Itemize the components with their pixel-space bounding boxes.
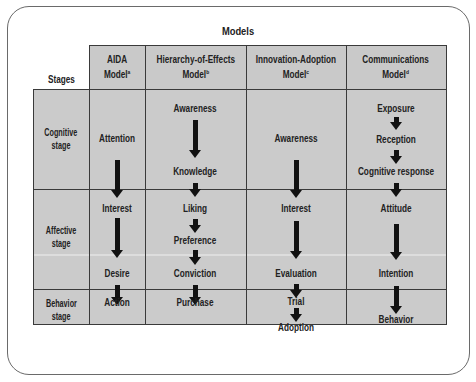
stage-cognitive: Cognitivestage — [33, 126, 89, 152]
sheen — [33, 254, 446, 256]
innovation-step: Adoption — [278, 322, 314, 334]
hierarchy-step: Knowledge — [173, 166, 217, 178]
models-title: Models — [36, 25, 441, 37]
communications-step: Intention — [379, 268, 414, 280]
header-aida: AIDAModela — [89, 45, 145, 90]
header-hierarchy-of-effects: Hierarchy-of-EffectsModelb — [145, 45, 246, 90]
innovation-step: Interest — [281, 203, 311, 215]
grid-line — [33, 289, 446, 290]
communications-step: Attitude — [381, 203, 412, 215]
grid-line — [33, 189, 446, 190]
header-communications: CommunicationsModeld — [346, 45, 446, 90]
communications-step: Behavior — [378, 314, 413, 326]
innovation-step: Awareness — [274, 133, 317, 145]
innovation-step: Evaluation — [275, 268, 316, 280]
grid-line — [89, 45, 446, 46]
aida-step: Interest — [102, 203, 132, 215]
stage-behavior: Behaviorstage — [33, 297, 89, 323]
hierarchy-step: Conviction — [174, 268, 216, 280]
hierarchy-step: Awareness — [173, 103, 216, 115]
aida-step: Attention — [99, 133, 135, 145]
header-innovation-adoption: Innovation-AdoptionModelc — [246, 45, 346, 90]
stages-header: Stages — [33, 70, 89, 90]
innovation-step: Trial — [288, 296, 305, 308]
grid-line — [346, 45, 347, 325]
hierarchy-step: Purchase — [177, 297, 214, 309]
communications-step: Cognitive response — [358, 166, 434, 178]
grid-line — [446, 45, 447, 325]
grid-line — [246, 45, 247, 325]
grid-line — [89, 45, 90, 325]
grid-line — [145, 45, 146, 325]
aida-step: Desire — [104, 268, 129, 280]
stage-affective: Affectivestage — [33, 224, 89, 250]
hierarchy-step: Preference — [174, 235, 216, 247]
grid-line — [33, 89, 34, 325]
hierarchy-step: Liking — [183, 203, 207, 215]
grid-line — [33, 89, 446, 90]
aida-step: Action — [104, 297, 130, 309]
communications-step: Exposure — [377, 103, 414, 115]
communications-step: Reception — [376, 134, 416, 146]
